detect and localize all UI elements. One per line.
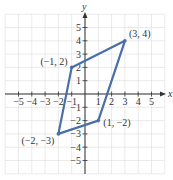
- vertex-label: (−2, −3): [21, 135, 54, 147]
- vertex-point: [70, 66, 74, 70]
- x-axis-label: x: [167, 88, 173, 99]
- vertex-label: (−1, 2): [40, 56, 67, 68]
- y-tick-label: −5: [70, 155, 81, 166]
- x-tick-label: 4: [136, 96, 141, 107]
- y-axis-label: y: [81, 1, 87, 12]
- y-axis-arrow-icon: [83, 12, 88, 18]
- x-tick-label: 3: [122, 96, 127, 107]
- x-tick-label: −4: [26, 96, 37, 107]
- y-tick-label: 4: [76, 35, 81, 46]
- coordinate-plane: x y −5−4−3−2−11234554321−1−2−3−4−5 (−1, …: [0, 0, 173, 180]
- y-tick-label: 5: [76, 22, 81, 33]
- x-tick-label: 2: [109, 96, 114, 107]
- y-tick-label: −2: [70, 115, 81, 126]
- y-tick-label: −4: [70, 142, 81, 153]
- x-tick-label: 1: [96, 96, 101, 107]
- x-tick-label: −2: [53, 96, 64, 107]
- x-tick-label: −5: [13, 96, 24, 107]
- point-labels: (−1, 2)(3, 4)(1, −2)(−2, −3): [21, 28, 150, 147]
- x-tick-label: 5: [149, 96, 154, 107]
- vertex-label: (3, 4): [129, 28, 151, 40]
- vertex-label: (1, −2): [103, 117, 130, 129]
- vertex-point: [57, 132, 61, 136]
- y-tick-label: −1: [70, 102, 81, 113]
- vertex-point: [97, 119, 101, 123]
- y-tick-label: 1: [76, 75, 81, 86]
- x-tick-label: −3: [40, 96, 51, 107]
- vertex-point: [123, 39, 127, 43]
- y-tick-label: 3: [76, 49, 81, 60]
